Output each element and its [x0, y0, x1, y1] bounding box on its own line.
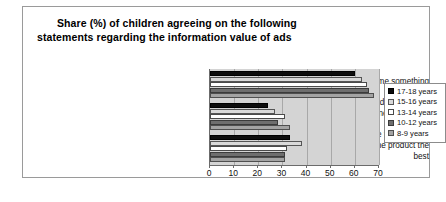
legend-swatch-icon-1	[388, 99, 394, 105]
legend-swatch-icon-4	[388, 130, 394, 136]
legend-label-4: 8-9 years	[397, 129, 429, 138]
bar-1-0	[210, 103, 268, 108]
figure-caption	[4, 190, 434, 202]
bar-0-2	[210, 82, 367, 87]
bar-2-1	[210, 141, 302, 146]
bar-0-0	[210, 71, 355, 76]
legend-item-1[interactable]: 15-16 years	[388, 97, 443, 107]
legend-label-0: 17-18 years	[397, 87, 437, 96]
tick-label-30: 30	[271, 168, 291, 178]
legend-label-3: 10-12 years	[397, 118, 437, 127]
legend-label-1: 15-16 years	[397, 97, 437, 106]
legend-swatch-icon-3	[388, 120, 394, 126]
tick-label-70: 70	[368, 168, 388, 178]
bar-group-1	[210, 101, 379, 133]
tick-label-20: 20	[247, 168, 267, 178]
tick-label-0: 0	[199, 168, 219, 178]
bar-2-2	[210, 146, 287, 151]
chart-frame: Share (%) of children agreeing on the fo…	[22, 6, 430, 178]
chart-legend: 17-18 years15-16 years13-14 years10-12 y…	[384, 83, 446, 143]
legend-swatch-icon-2	[388, 109, 394, 115]
tick-label-60: 60	[344, 168, 364, 178]
chart-title: Share (%) of children agreeing on the fo…	[33, 16, 413, 44]
legend-item-0[interactable]: 17-18 years	[388, 86, 443, 96]
bar-group-2	[210, 133, 379, 165]
tick-label-50: 50	[320, 168, 340, 178]
legend-swatch-icon-0	[388, 88, 394, 94]
category-label-2-line-2: best	[414, 152, 429, 161]
chart-title-line-1: Share (%) of children agreeing on the fo…	[33, 16, 413, 30]
plot-area	[209, 69, 379, 166]
bar-1-1	[210, 109, 275, 114]
chart-title-line-2: statements regarding the information val…	[33, 30, 413, 44]
legend-item-4[interactable]: 8-9 years	[388, 128, 443, 138]
tick-label-40: 40	[296, 168, 316, 178]
bar-1-4	[210, 125, 290, 130]
tick-label-10: 10	[223, 168, 243, 178]
bar-2-3	[210, 152, 285, 157]
legend-item-3[interactable]: 10-12 years	[388, 118, 443, 128]
bar-0-1	[210, 77, 362, 82]
bar-2-4	[210, 157, 285, 162]
bar-2-0	[210, 135, 290, 140]
legend-label-2: 13-14 years	[397, 108, 437, 117]
bar-1-3	[210, 120, 278, 125]
legend-item-2[interactable]: 13-14 years	[388, 107, 443, 117]
bar-group-0	[210, 69, 379, 101]
gridline-70	[379, 69, 380, 165]
bar-0-4	[210, 93, 374, 98]
bar-1-2	[210, 114, 285, 119]
bar-0-3	[210, 88, 369, 93]
